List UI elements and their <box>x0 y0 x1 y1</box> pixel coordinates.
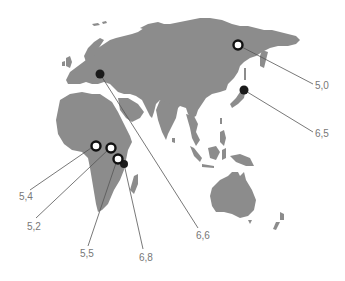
taiwan <box>220 118 222 124</box>
world-map: 5,0 6,5 6,6 5,4 5,2 5,5 6,8 <box>0 0 345 281</box>
land-masses <box>56 18 300 230</box>
ireland <box>62 61 65 66</box>
marker-open-m6[interactable] <box>114 155 123 164</box>
australia <box>210 172 256 218</box>
leader-m7 <box>124 164 143 249</box>
new-zealand-north <box>280 212 284 220</box>
marker-open-m5[interactable] <box>107 144 116 153</box>
label-m3: 6,6 <box>196 230 210 241</box>
kamchatka <box>260 50 268 68</box>
label-m1: 5,0 <box>315 80 329 91</box>
tasmania <box>248 220 252 224</box>
svalbard <box>92 23 100 26</box>
sumatra <box>190 146 202 162</box>
new-zealand-south <box>273 222 280 230</box>
borneo <box>208 146 220 160</box>
java <box>202 164 214 168</box>
arabian-peninsula <box>118 98 144 122</box>
leader-m2 <box>244 90 313 132</box>
indochina <box>186 114 200 146</box>
label-m4: 5,4 <box>19 191 33 202</box>
arctic-isle <box>102 21 107 24</box>
madagascar <box>130 174 138 194</box>
new-guinea <box>230 154 254 166</box>
label-m5: 5,2 <box>27 221 41 232</box>
philippines <box>220 130 226 146</box>
label-m7: 6,8 <box>139 252 153 263</box>
sulawesi <box>222 148 226 160</box>
marker-solid-m2[interactable] <box>240 86 249 95</box>
british-isles <box>66 56 72 68</box>
sri-lanka <box>172 138 175 143</box>
marker-open-m4[interactable] <box>92 142 101 151</box>
marker-open-m1[interactable] <box>234 41 243 50</box>
leader-m1 <box>238 45 313 84</box>
leader-m4 <box>30 146 94 190</box>
label-m2: 6,5 <box>315 128 329 139</box>
marker-solid-m3[interactable] <box>96 70 105 79</box>
sakhalin <box>244 68 246 80</box>
label-m6: 5,5 <box>80 248 94 259</box>
